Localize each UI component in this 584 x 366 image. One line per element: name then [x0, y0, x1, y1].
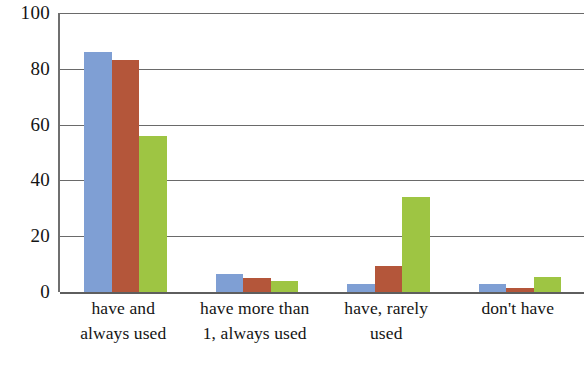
- y-axis-tick-label: 80: [0, 59, 50, 78]
- bar: [375, 266, 403, 293]
- bar-chart-figure: 020406080100 have andalways usedhave mor…: [0, 0, 584, 366]
- plot-area: [58, 13, 584, 292]
- gridline: [60, 13, 584, 14]
- y-axis-tick-label: 60: [0, 115, 50, 134]
- y-axis-tick-label: 40: [0, 170, 50, 189]
- x-axis: have andalways usedhave more than1, alwa…: [58, 296, 584, 366]
- x-axis-category-label-line: have and: [58, 296, 190, 321]
- bar: [84, 52, 112, 292]
- axis-baseline: [60, 292, 584, 294]
- y-axis-tick-label: 0: [0, 282, 50, 301]
- bar: [534, 277, 562, 292]
- bar: [112, 60, 140, 292]
- x-axis-category-label-line: used: [321, 321, 453, 346]
- bar: [216, 274, 244, 292]
- x-axis-category-label-line: 1, always used: [189, 321, 321, 346]
- scan-edge: [0, 0, 584, 3]
- bar: [347, 284, 375, 292]
- x-axis-category-label-line: have more than: [189, 296, 321, 321]
- x-axis-category-label: have, rarelyused: [321, 296, 453, 346]
- x-axis-category-label: don't have: [452, 296, 584, 321]
- bar: [506, 288, 534, 292]
- x-axis-category-label: have more than1, always used: [189, 296, 321, 346]
- x-axis-category-label-line: always used: [58, 321, 190, 346]
- y-axis-tick-label: 20: [0, 226, 50, 245]
- y-axis-tick-label: 100: [0, 3, 50, 22]
- bar: [402, 197, 430, 292]
- bar: [139, 136, 167, 292]
- bar: [479, 284, 507, 292]
- y-axis: 020406080100: [0, 0, 50, 300]
- x-axis-category-label: have andalways used: [58, 296, 190, 346]
- bar: [243, 278, 271, 292]
- x-axis-category-label-line: have, rarely: [321, 296, 453, 321]
- x-axis-category-label-line: don't have: [452, 296, 584, 321]
- bar: [271, 281, 299, 292]
